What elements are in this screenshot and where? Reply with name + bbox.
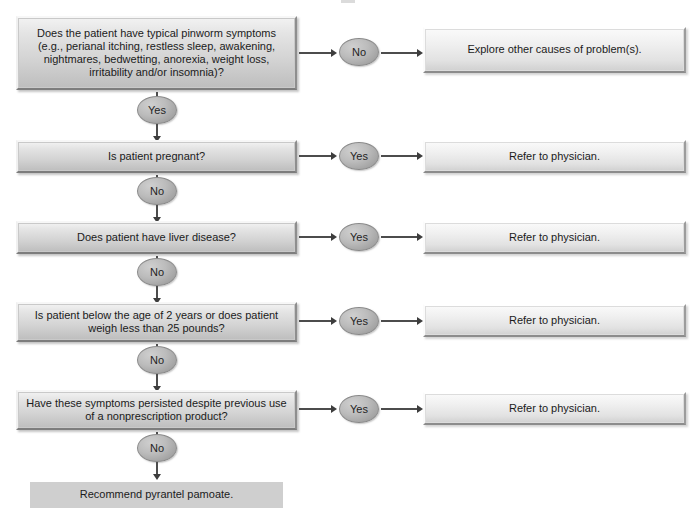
arrow-q1-to-no — [299, 52, 337, 60]
outcome-box-refer-physician-2[interactable]: Refer to physician. — [423, 140, 686, 173]
connector-yes-1-label: Yes — [148, 105, 166, 116]
connector-no-4-label: No — [150, 355, 164, 366]
outcome-box-explore-other-causes[interactable]: Explore other causes of problem(s). — [423, 27, 686, 73]
decision-box-symptoms[interactable]: Does the patient have typical pinworm sy… — [16, 16, 297, 90]
outcome-box-refer-physician-5[interactable]: Refer to physician. — [423, 392, 686, 425]
decision-box-symptoms-label: Does the patient have typical pinworm sy… — [18, 25, 295, 82]
connector-no-2-label: No — [150, 186, 164, 197]
connector-yes-5-label: Yes — [350, 404, 368, 415]
arrow-yes-to-outcome-4 — [381, 320, 423, 328]
outcome-box-refer-physician-4[interactable]: Refer to physician. — [423, 304, 686, 337]
arrow-yes-to-outcome-2 — [381, 155, 423, 163]
arrow-q2-to-yes — [299, 155, 337, 163]
outcome-box-refer-physician-2-label: Refer to physician. — [425, 148, 684, 165]
connector-no-1[interactable]: No — [339, 38, 379, 66]
arrow-yes-to-outcome-3 — [381, 236, 423, 244]
connector-no-5[interactable]: No — [137, 434, 177, 462]
flowchart-canvas: Does the patient have typical pinworm sy… — [0, 0, 696, 519]
connector-no-3-label: No — [150, 267, 164, 278]
outcome-box-explore-other-causes-label: Explore other causes of problem(s). — [425, 41, 684, 58]
arrow-q3-to-yes — [299, 236, 337, 244]
decision-box-persistent-symptoms[interactable]: Have these symptoms persisted despite pr… — [16, 390, 297, 430]
decision-box-pregnant[interactable]: Is patient pregnant? — [16, 140, 297, 173]
terminal-box-recommend-pyrantel-pamoate-label: Recommend pyrantel pamoate. — [30, 486, 283, 503]
connector-yes-1[interactable]: Yes — [137, 96, 177, 124]
arrow-no-to-outcome-1 — [381, 52, 423, 60]
connector-yes-3-label: Yes — [350, 232, 368, 243]
connector-yes-3[interactable]: Yes — [339, 223, 379, 251]
decision-box-age-weight-label: Is patient below the age of 2 years or d… — [18, 307, 295, 337]
connector-no-3[interactable]: No — [137, 258, 177, 286]
terminal-box-recommend-pyrantel-pamoate[interactable]: Recommend pyrantel pamoate. — [30, 482, 283, 508]
scan-artifact — [341, 0, 355, 3]
decision-box-liver-disease-label: Does patient have liver disease? — [18, 229, 295, 246]
decision-box-liver-disease[interactable]: Does patient have liver disease? — [16, 221, 297, 254]
connector-yes-4-label: Yes — [350, 316, 368, 327]
arrow-no-to-final — [156, 462, 164, 480]
outcome-box-refer-physician-3-label: Refer to physician. — [425, 229, 684, 246]
decision-box-pregnant-label: Is patient pregnant? — [18, 148, 295, 165]
connector-yes-4[interactable]: Yes — [339, 307, 379, 335]
arrow-q5-to-yes — [299, 408, 337, 416]
outcome-box-refer-physician-5-label: Refer to physician. — [425, 400, 684, 417]
connector-no-5-label: No — [150, 443, 164, 454]
arrow-yes-to-outcome-5 — [381, 408, 423, 416]
connector-no-2[interactable]: No — [137, 177, 177, 205]
outcome-box-refer-physician-3[interactable]: Refer to physician. — [423, 221, 686, 254]
connector-no-1-label: No — [352, 47, 366, 58]
connector-yes-5[interactable]: Yes — [339, 395, 379, 423]
outcome-box-refer-physician-4-label: Refer to physician. — [425, 312, 684, 329]
connector-yes-2[interactable]: Yes — [339, 142, 379, 170]
arrow-q4-to-yes — [299, 320, 337, 328]
connector-yes-2-label: Yes — [350, 151, 368, 162]
decision-box-age-weight[interactable]: Is patient below the age of 2 years or d… — [16, 302, 297, 342]
connector-no-4[interactable]: No — [137, 346, 177, 374]
decision-box-persistent-symptoms-label: Have these symptoms persisted despite pr… — [18, 395, 295, 425]
